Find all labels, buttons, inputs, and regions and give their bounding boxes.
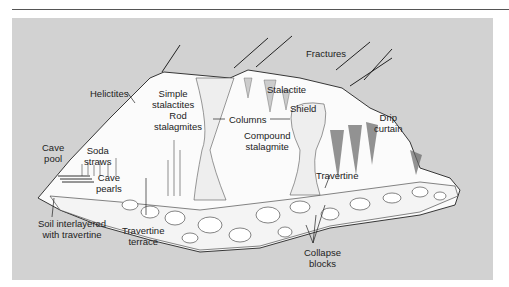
label-soil-interlayered: Soil interlayered with travertine [38, 218, 106, 240]
label-compound-stalagmite: Compound stalagmite [244, 130, 290, 152]
label-rod-stalagmites: Rod stalagmites [154, 110, 202, 132]
label-travertine-terrace: Travertine terrace [122, 225, 164, 247]
label-stalactite: Stalactite [267, 84, 306, 95]
label-simple-stalactites: Simple stalactites [152, 88, 194, 110]
label-drip-curtain: Drip curtain [374, 112, 403, 134]
label-travertine: Travertine [316, 170, 358, 181]
label-soda-straws: Soda straws [84, 145, 111, 167]
label-helictites: Helictites [90, 88, 129, 99]
label-fractures: Fractures [306, 48, 346, 59]
label-columns: Columns [229, 114, 267, 125]
label-cave-pearls: Cave pearls [96, 172, 122, 194]
label-cave-pool: Cave pool [42, 142, 64, 164]
label-shield: Shield [290, 103, 316, 114]
label-collapse-blocks: Collapse blocks [304, 247, 341, 269]
